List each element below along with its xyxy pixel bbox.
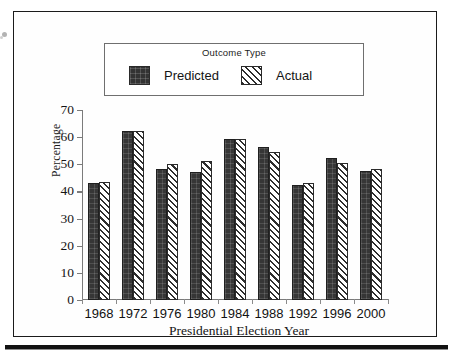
bar-predicted-2000: [360, 171, 371, 300]
legend-item-actual: Actual: [241, 66, 312, 85]
x-axis-tick-label-1988: 1988: [255, 306, 284, 321]
y-axis-tick-label: 50: [61, 156, 75, 172]
x-axis-tick: [388, 299, 389, 304]
y-axis-spine: [82, 110, 83, 300]
x-axis-tick-label-1980: 1980: [187, 306, 216, 321]
legend-label-predicted: Predicted: [164, 68, 219, 83]
bar-actual-1988: [269, 152, 280, 300]
y-axis-tick-label: 60: [61, 129, 75, 145]
bar-predicted-1968: [88, 183, 99, 300]
x-axis-tick: [184, 299, 185, 304]
x-axis-tick: [252, 299, 253, 304]
page-rule-shadow: [5, 349, 448, 350]
y-axis-tick-label: 70: [61, 102, 75, 118]
scan-speck-secondary: [0, 36, 3, 39]
bar-actual-2000: [371, 169, 382, 300]
y-axis-tick-label: 20: [61, 238, 75, 254]
x-axis-tick: [150, 299, 151, 304]
x-axis-tick-label-1992: 1992: [289, 306, 318, 321]
x-axis-tick-label-1984: 1984: [221, 306, 250, 321]
y-axis-tick: [77, 110, 82, 111]
x-axis-tick: [82, 299, 83, 304]
legend-item-predicted: Predicted: [129, 66, 219, 85]
x-axis-title: Presidential Election Year: [27, 323, 451, 339]
bar-predicted-1992: [292, 185, 303, 300]
bar-group-1992: [292, 110, 314, 300]
y-axis-tick: [77, 273, 82, 274]
y-axis-tick: [77, 164, 82, 165]
y-axis-tick: [77, 219, 82, 220]
bar-predicted-1976: [156, 169, 167, 300]
bar-predicted-1972: [122, 131, 133, 300]
bar-group-2000: [360, 110, 382, 300]
figure-frame: Outcome Type Predicted Actual Percentage…: [13, 11, 437, 337]
legend-label-actual: Actual: [276, 68, 312, 83]
y-axis-tick: [77, 137, 82, 138]
bar-group-1980: [190, 110, 212, 300]
x-axis-tick: [218, 299, 219, 304]
plot-area: 010203040506070 196819721976198019841988…: [82, 110, 388, 300]
x-axis-tick-label-2000: 2000: [357, 306, 386, 321]
bar-actual-1992: [303, 183, 314, 300]
bar-predicted-1980: [190, 172, 201, 300]
bar-group-1976: [156, 110, 178, 300]
bar-predicted-1984: [224, 139, 235, 300]
bar-group-1988: [258, 110, 280, 300]
bar-group-1972: [122, 110, 144, 300]
bar-actual-1968: [99, 182, 110, 300]
bar-actual-1996: [337, 163, 348, 300]
x-axis-tick-label-1968: 1968: [85, 306, 114, 321]
x-axis-tick-label-1976: 1976: [153, 306, 182, 321]
y-axis-tick-label: 0: [67, 292, 74, 308]
bar-actual-1980: [201, 161, 212, 300]
bar-group-1996: [326, 110, 348, 300]
legend-swatch-actual-icon: [241, 66, 262, 85]
bar-predicted-1988: [258, 147, 269, 300]
bar-group-1968: [88, 110, 110, 300]
legend-swatch-predicted-icon: [129, 66, 150, 85]
y-axis-tick-label: 30: [61, 211, 75, 227]
y-axis-tick: [77, 246, 82, 247]
x-axis-tick: [354, 299, 355, 304]
legend-title: Outcome Type: [105, 47, 363, 58]
y-axis-tick: [77, 191, 82, 192]
bar-actual-1976: [167, 164, 178, 300]
x-axis-tick: [286, 299, 287, 304]
x-axis-tick-label-1996: 1996: [323, 306, 352, 321]
x-axis-tick: [320, 299, 321, 304]
bar-actual-1972: [133, 131, 144, 300]
bar-actual-1984: [235, 139, 246, 300]
y-axis-tick-label: 10: [61, 265, 75, 281]
bar-group-1984: [224, 110, 246, 300]
x-axis-tick: [116, 299, 117, 304]
y-axis-tick-label: 40: [61, 183, 75, 199]
chart-legend: Outcome Type Predicted Actual: [104, 43, 364, 96]
x-axis-tick-label-1972: 1972: [119, 306, 148, 321]
bar-predicted-1996: [326, 158, 337, 300]
